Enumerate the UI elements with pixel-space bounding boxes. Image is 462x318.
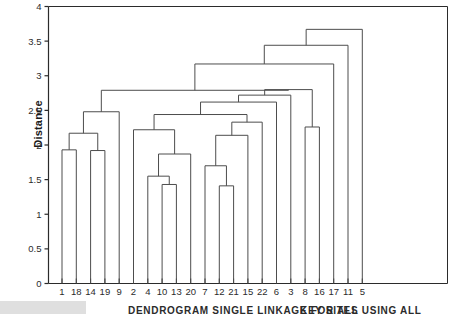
leaf-label-10: 10 bbox=[157, 286, 168, 297]
dendrogram-link-m2 bbox=[91, 151, 105, 284]
dendrogram-link-m1 bbox=[62, 150, 76, 284]
leaf-label-17: 17 bbox=[328, 286, 339, 297]
dendrogram-link-m7 bbox=[134, 130, 175, 284]
caption-line-2: KEY SITES USING ALL bbox=[300, 306, 422, 316]
leaf-label-6: 6 bbox=[274, 286, 279, 297]
y-tick-label: 1 bbox=[36, 209, 41, 220]
leaf-label-8: 8 bbox=[302, 286, 307, 297]
y-tick-label: 3 bbox=[36, 70, 41, 81]
y-tick-label: 2.5 bbox=[28, 105, 41, 116]
leaf-label-7: 7 bbox=[202, 286, 207, 297]
y-tick-label: 0.5 bbox=[28, 243, 41, 254]
leaf-label-18: 18 bbox=[71, 286, 82, 297]
figure-caption: DENDROGRAM SINGLE LINKAGE FOR ALL KEY SI… bbox=[0, 306, 462, 318]
dendrogram-plot: 00.511.522.533.5411814199241013207122115… bbox=[0, 0, 462, 318]
leaf-label-12: 12 bbox=[214, 286, 225, 297]
dendrogram-link-m13 bbox=[83, 112, 119, 284]
leaf-label-15: 15 bbox=[243, 286, 254, 297]
leaf-label-19: 19 bbox=[100, 286, 111, 297]
leaf-label-20: 20 bbox=[185, 286, 196, 297]
dendrogram-figure: Distance 00.511.522.533.5411814199241013… bbox=[0, 0, 462, 318]
leaf-label-1: 1 bbox=[59, 286, 64, 297]
dendrogram-link-m4 bbox=[162, 184, 176, 283]
dendrogram-link-m16 bbox=[239, 95, 291, 283]
leaf-label-21: 21 bbox=[228, 286, 239, 297]
y-tick-label: 1.5 bbox=[28, 174, 41, 185]
dendrogram-link-m15 bbox=[201, 102, 277, 283]
leaf-label-2: 2 bbox=[131, 286, 136, 297]
leaf-label-22: 22 bbox=[257, 286, 268, 297]
leaf-label-16: 16 bbox=[314, 286, 325, 297]
y-tick-label: 4 bbox=[36, 1, 41, 12]
dendrogram-link-m19 bbox=[195, 64, 334, 284]
leaf-label-13: 13 bbox=[171, 286, 182, 297]
leaf-label-9: 9 bbox=[117, 286, 122, 297]
leaf-label-5: 5 bbox=[360, 286, 365, 297]
y-tick-label: 2 bbox=[36, 140, 41, 151]
dendrogram-link-m21 bbox=[306, 29, 362, 283]
y-tick-label: 3.5 bbox=[28, 36, 41, 47]
dendrogram-link-m3 bbox=[69, 133, 98, 150]
dendrogram-link-m14 bbox=[305, 127, 319, 284]
leaf-label-11: 11 bbox=[343, 286, 353, 297]
leaf-label-14: 14 bbox=[85, 286, 96, 297]
dendrogram-link-m5 bbox=[148, 176, 169, 283]
dendrogram-link-m18 bbox=[101, 90, 288, 112]
leaf-label-4: 4 bbox=[145, 286, 150, 297]
dendrogram-link-m10 bbox=[216, 135, 248, 283]
dendrogram-link-m6 bbox=[159, 154, 191, 283]
dendrogram-link-m9 bbox=[205, 166, 226, 284]
leaf-label-3: 3 bbox=[288, 286, 293, 297]
dendrogram-link-m11 bbox=[232, 122, 262, 283]
dendrogram-link-m8 bbox=[219, 186, 233, 284]
y-tick-label: 0 bbox=[36, 278, 41, 289]
